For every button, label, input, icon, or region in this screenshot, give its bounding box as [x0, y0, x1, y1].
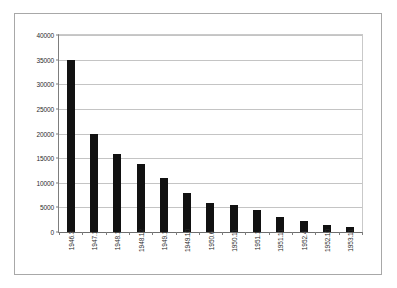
x-tick-mark [339, 232, 340, 235]
bar-slot[interactable] [199, 35, 222, 232]
bar-slot[interactable] [292, 35, 315, 232]
x-tick-label: 1947.1 [90, 231, 97, 250]
x-tick-mark [152, 232, 153, 235]
x-tick-label: 1950.6 [207, 231, 214, 250]
bar-slot[interactable] [245, 35, 268, 232]
x-tick-mark [362, 232, 363, 235]
x-tick-mark [82, 232, 83, 235]
x-tick-label: 1948.1 [114, 231, 121, 250]
x-tick-label: 1949.1 [160, 231, 167, 250]
x-tick-label: 1951.1 [254, 231, 261, 250]
y-tick-label: 40000 [36, 32, 54, 39]
x-tick-label: 1949.10 [184, 229, 191, 252]
x-tick-mark [315, 232, 316, 235]
plot-area: 0500010000150002000025000300003500040000… [58, 34, 363, 233]
x-tick-mark [199, 232, 200, 235]
y-tick-label: 5000 [40, 204, 54, 211]
bar[interactable] [67, 60, 75, 232]
bar-slot[interactable] [269, 35, 292, 232]
chart-figure: 0500010000150002000025000300003500040000… [14, 13, 382, 275]
x-tick-mark [59, 232, 60, 235]
x-tick-mark [292, 232, 293, 235]
bar-slot[interactable] [152, 35, 175, 232]
bar-slot[interactable] [339, 35, 362, 232]
bar[interactable] [113, 154, 121, 232]
x-tick-label: 1950.11 [230, 229, 237, 251]
x-tick-label: 1952.4 [300, 231, 307, 250]
x-tick-mark [269, 232, 270, 235]
bar-slot[interactable] [222, 35, 245, 232]
bar-slot[interactable] [82, 35, 105, 232]
x-tick-mark [176, 232, 177, 235]
y-tick-label: 0 [50, 229, 54, 236]
x-tick-mark [222, 232, 223, 235]
bar-slot[interactable] [59, 35, 82, 232]
bar-slot[interactable] [315, 35, 338, 232]
x-tick-mark [106, 232, 107, 235]
bar[interactable] [183, 193, 191, 232]
bar[interactable] [90, 134, 98, 233]
y-tick-label: 30000 [36, 81, 54, 88]
bars-group [59, 35, 362, 232]
x-tick-label: 1952.10 [324, 229, 331, 252]
bar[interactable] [230, 205, 238, 232]
bar[interactable] [160, 178, 168, 232]
x-tick-label: 1951.11 [277, 229, 284, 251]
y-tick-label: 15000 [36, 155, 54, 162]
x-tick-label: 1946.3 [67, 231, 74, 250]
y-tick-label: 25000 [36, 105, 54, 112]
x-tick-label: 1953.11 [347, 229, 354, 251]
y-tick-label: 35000 [36, 56, 54, 63]
bar-slot[interactable] [129, 35, 152, 232]
x-tick-mark [245, 232, 246, 235]
bar-slot[interactable] [106, 35, 129, 232]
bar[interactable] [206, 203, 214, 232]
y-tick-label: 10000 [36, 179, 54, 186]
x-tick-label: 1948.12 [137, 229, 144, 252]
bar[interactable] [253, 210, 261, 232]
x-tick-mark [129, 232, 130, 235]
y-tick-label: 20000 [36, 130, 54, 137]
bar-slot[interactable] [176, 35, 199, 232]
bar[interactable] [137, 164, 145, 232]
